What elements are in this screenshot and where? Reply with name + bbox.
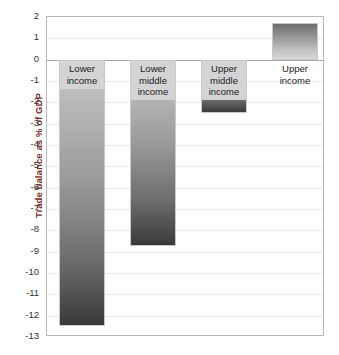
y-tick-label: -3: [0, 118, 39, 128]
y-tick-label: -8: [0, 225, 39, 235]
y-tick-label: -4: [0, 139, 39, 149]
y-tick-label: -2: [0, 97, 39, 107]
y-tick-label: 2: [0, 11, 39, 21]
y-tick-label: -13: [0, 331, 39, 341]
bar-label-upper-income: Upper income: [269, 61, 321, 89]
bar-label-line: income: [60, 75, 104, 87]
y-tick-label: -9: [0, 246, 39, 256]
bar-label-line: middle: [131, 75, 175, 87]
bar-label-line: Lower: [131, 63, 175, 75]
y-tick-label: 1: [0, 33, 39, 43]
bar-upper-income[interactable]: [272, 23, 318, 59]
y-tick-label: -11: [0, 289, 39, 299]
y-tick-label: 0: [0, 54, 39, 64]
bar-label-line: income: [269, 75, 321, 87]
bar-label-line: income: [131, 86, 175, 98]
y-tick-label: -5: [0, 161, 39, 171]
bar-label-line: income: [202, 86, 246, 98]
bar-lower-income[interactable]: [59, 60, 105, 327]
y-tick-label: -6: [0, 182, 39, 192]
bar-label-line: middle: [202, 75, 246, 87]
bar-label-line: Upper: [269, 63, 321, 75]
bar-label-line: Upper: [202, 63, 246, 75]
bar-label-upper-middle-income: Upper middle income: [202, 61, 246, 100]
bar-label-line: Lower: [60, 63, 104, 75]
bar-label-lower-middle-income: Lower middle income: [131, 61, 175, 100]
bar-label-lower-income: Lower income: [60, 61, 104, 89]
y-tick-label: -1: [0, 75, 39, 85]
y-tick-label: -12: [0, 310, 39, 320]
y-axis-tick-labels: 2 1 0 -1 -2 -3 -4 -5 -6 -7 -8 -9 -10 -11…: [0, 16, 42, 336]
plot-area: Lower income Lower middle income Upper m…: [46, 16, 324, 336]
y-tick-label: -10: [0, 267, 39, 277]
y-tick-label: -7: [0, 203, 39, 213]
chart-figure: Trade balance as % of GDP 2 1 0 -1 -2 -3…: [0, 0, 339, 355]
